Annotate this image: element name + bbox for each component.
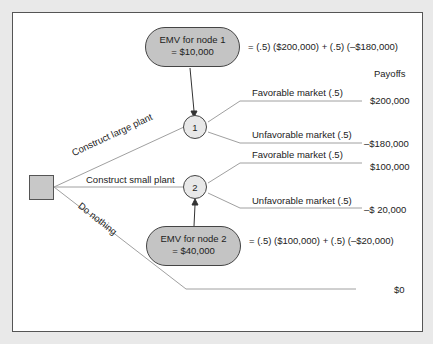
decision-node (29, 175, 54, 200)
outcome-label-1-favorable: Favorable market (.5) (252, 87, 343, 98)
payoff-2-unfavorable: –$ 20,000 (364, 204, 406, 215)
chance-node-1: 1 (183, 115, 207, 139)
chance-node-2: 2 (183, 175, 207, 199)
outcome-label-1-unfavorable: Unfavorable market (.5) (252, 129, 352, 140)
emv-node-1-line1: EMV for node 1 (146, 34, 239, 46)
payoffs-header: Payoffs (374, 68, 406, 79)
outcome-label-2-unfavorable: Unfavorable market (.5) (252, 195, 352, 206)
emv-box-node-1: EMV for node 1 = $10,000 (145, 27, 240, 67)
outcome-label-2-favorable: Favorable market (.5) (252, 149, 343, 160)
emv-box-node-2: EMV for node 2 = $40,000 (146, 226, 241, 266)
emv-node-2-line2: = $40,000 (147, 245, 240, 257)
payoff-1-favorable: $200,000 (370, 95, 410, 106)
emv-node-2-line1: EMV for node 2 (147, 233, 240, 245)
payoff-2-favorable: $100,000 (370, 161, 410, 172)
payoff-1-unfavorable: –$180,000 (364, 138, 409, 149)
formula-node-2: = (.5) ($100,000) + (.5) (–$20,000) (249, 235, 394, 246)
emv-node-1-line2: = $10,000 (146, 46, 239, 58)
payoff-do-nothing: $0 (394, 284, 405, 295)
branch-label-small-plant: Construct small plant (86, 174, 175, 185)
formula-node-1: = (.5) ($200,000) + (.5) (–$180,000) (248, 41, 398, 52)
